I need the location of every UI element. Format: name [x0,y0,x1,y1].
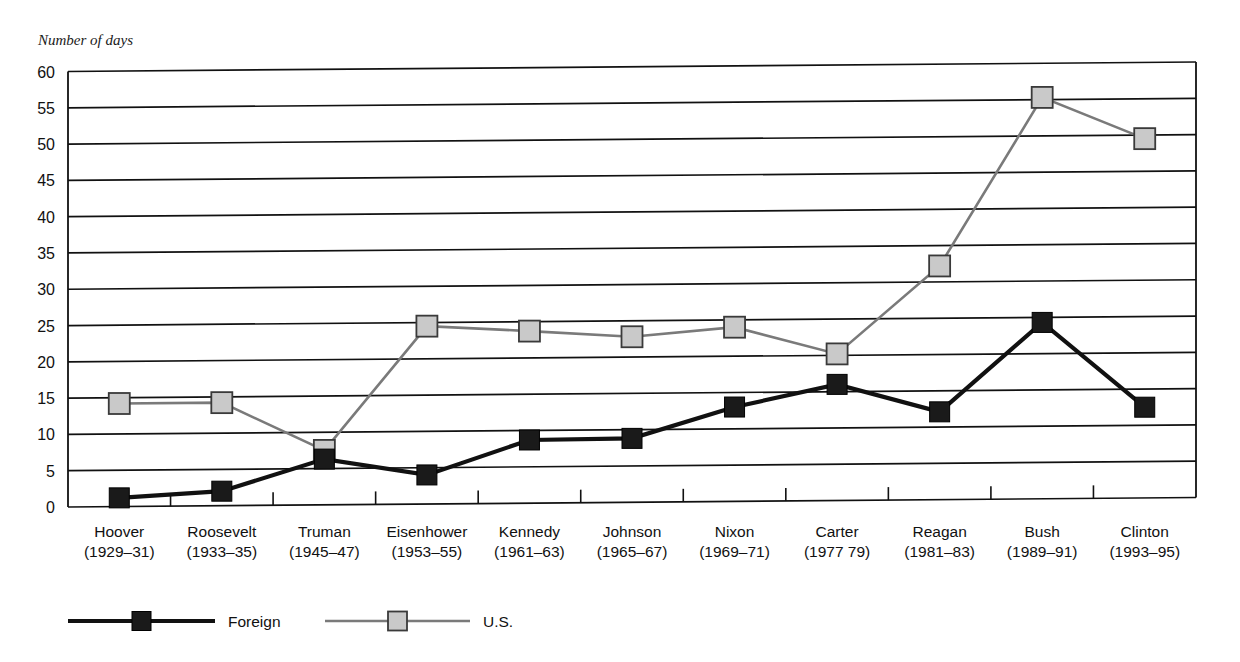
y-tick-label-45: 45 [37,172,55,189]
y-tick-label-30: 30 [37,281,55,298]
data-point-foreign-bush [1032,312,1052,332]
x-label-name-carter: Carter [816,523,859,540]
y-tick-label-50: 50 [37,136,55,153]
data-point-us-carter [827,343,848,364]
x-label-name-johnson: Johnson [603,523,662,540]
gridline-50 [68,135,1196,145]
gridline-35 [68,243,1196,253]
gridline-30 [68,280,1196,290]
y-tick-label-20: 20 [37,354,55,371]
x-label-years-truman: (1945–47) [289,543,360,560]
data-point-us-roosevelt [211,392,232,413]
y-tick-label-25: 25 [37,318,55,335]
data-point-foreign-clinton [1135,397,1155,417]
x-label-years-roosevelt: (1933–35) [186,543,257,560]
x-label-name-truman: Truman [298,523,351,540]
gridline-55 [68,98,1196,108]
data-point-us-clinton [1134,128,1155,149]
data-point-foreign-reagan [930,402,950,422]
y-tick-label-5: 5 [46,463,55,480]
gridline-20 [68,352,1196,362]
y-tick-label-0: 0 [46,499,55,516]
data-point-foreign-carter [827,374,847,394]
data-point-foreign-eisenhower [417,465,437,485]
y-tick-label-60: 60 [37,64,55,81]
series-line-us [119,97,1144,450]
x-label-name-kennedy: Kennedy [499,523,560,540]
y-tick-label-15: 15 [37,390,55,407]
data-point-us-hoover [109,393,130,414]
data-point-foreign-nixon [725,397,745,417]
chart-container: Number of days 051015202530354045505560 … [0,0,1240,662]
x-label-years-johnson: (1965–67) [597,543,668,560]
x-label-years-hoover: (1929–31) [84,543,155,560]
x-label-name-hoover: Hoover [94,523,144,540]
x-label-name-nixon: Nixon [715,523,755,540]
data-series-group [109,87,1155,508]
x-label-years-nixon: (1969–71) [699,543,770,560]
x-label-name-bush: Bush [1025,523,1060,540]
chart-legend: ForeignU.S. [68,612,513,631]
data-point-foreign-truman [314,449,334,469]
y-tick-label-40: 40 [37,209,55,226]
legend-label-us: U.S. [483,613,513,630]
x-label-name-reagan: Reagan [912,523,966,540]
legend-marker-foreign [132,612,151,631]
y-axis-tick-labels: 051015202530354045505560 [37,64,55,517]
series-line-foreign [119,322,1144,497]
data-point-us-eisenhower [416,316,437,337]
gridline-45 [68,171,1196,181]
gridline-25 [68,316,1196,326]
y-axis-title: Number of days [37,32,133,48]
data-point-us-nixon [724,317,745,338]
data-point-us-reagan [929,255,950,276]
y-tick-label-10: 10 [37,426,55,443]
gridline-40 [68,207,1196,217]
data-point-us-bush [1032,87,1053,108]
x-label-years-reagan: (1981–83) [904,543,975,560]
x-label-name-clinton: Clinton [1121,523,1169,540]
y-tick-label-55: 55 [37,100,55,117]
legend-marker-us [388,612,407,631]
gridline-5 [68,461,1196,471]
x-label-years-eisenhower: (1953–55) [392,543,463,560]
x-label-years-bush: (1989–91) [1007,543,1078,560]
gridline-0 [68,498,1196,508]
legend-label-foreign: Foreign [228,613,281,630]
x-label-name-eisenhower: Eisenhower [386,523,467,540]
x-label-name-roosevelt: Roosevelt [187,523,257,540]
x-label-years-clinton: (1993–95) [1109,543,1180,560]
gridline-15 [68,389,1196,399]
gridline-60 [68,62,1196,72]
data-point-us-kennedy [519,321,540,342]
data-point-foreign-johnson [622,428,642,448]
x-label-years-carter: (1977 79) [804,543,870,560]
line-chart: Number of days 051015202530354045505560 … [0,0,1240,662]
x-label-years-kennedy: (1961–63) [494,543,565,560]
data-point-foreign-hoover [109,488,129,508]
data-point-us-johnson [622,326,643,347]
x-axis-category-labels: Hoover(1929–31)Roosevelt(1933–35)Truman(… [84,523,1180,560]
y-tick-label-35: 35 [37,245,55,262]
data-point-foreign-roosevelt [212,481,232,501]
data-point-foreign-kennedy [519,430,539,450]
